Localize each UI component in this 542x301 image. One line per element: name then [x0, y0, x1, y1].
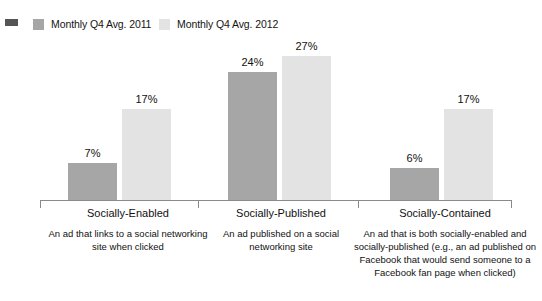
bar-value-label: 24% — [220, 56, 285, 68]
category-block-socially-published: Socially-Published An ad published on a … — [206, 207, 356, 253]
bar-chart: Monthly Q4 Avg. 2011 Monthly Q4 Avg. 201… — [0, 0, 542, 301]
bar-value-label: 6% — [382, 152, 447, 164]
axis-tick-left — [40, 200, 41, 208]
bar — [444, 109, 493, 200]
bar — [282, 56, 331, 200]
plot-area: 7%17%24%27%6%17% — [0, 0, 542, 201]
category-title: Socially-Contained — [352, 207, 538, 219]
bar — [122, 109, 171, 200]
bar-value-label: 27% — [274, 40, 339, 52]
bar-value-label: 17% — [436, 93, 501, 105]
category-block-socially-contained: Socially-Contained An ad that is both so… — [352, 207, 538, 279]
category-description: An ad that is both socially-enabled and … — [352, 227, 538, 279]
category-description: An ad published on a social networking s… — [206, 227, 356, 253]
category-block-socially-enabled: Socially-Enabled An ad that links to a s… — [42, 207, 214, 253]
bar — [228, 72, 277, 200]
bar — [68, 163, 117, 200]
category-title: Socially-Published — [206, 207, 356, 219]
bar — [390, 168, 439, 200]
category-description: An ad that links to a social networking … — [42, 227, 214, 253]
bar-value-label: 7% — [60, 147, 125, 159]
category-title: Socially-Enabled — [42, 207, 214, 219]
bar-value-label: 17% — [114, 93, 179, 105]
category-axis-line — [40, 200, 512, 201]
